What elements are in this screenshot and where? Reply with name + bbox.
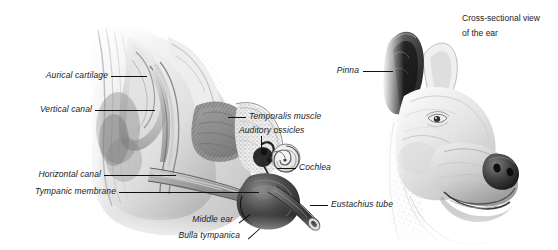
leader-pinna bbox=[363, 71, 393, 72]
label-pinna: Pinna bbox=[296, 65, 359, 75]
label-auditory-ossicles: Auditory ossicles bbox=[239, 125, 304, 135]
leader-tympanic-membrane bbox=[119, 192, 259, 193]
leader-cochlea bbox=[277, 168, 296, 169]
figure-caption-line2: of the ear bbox=[462, 26, 498, 41]
eustachius-tube-region bbox=[268, 186, 322, 233]
label-temporalis-muscle: Temporalis muscle bbox=[249, 111, 321, 121]
label-vertical-canal: Vertical canal bbox=[0, 104, 92, 114]
label-horizontal-canal: Horizontal canal bbox=[0, 169, 101, 179]
ear-anatomy-figure: Aurical cartilage Vertical canal Horizon… bbox=[0, 0, 558, 250]
leader-auditory-ossicles bbox=[261, 136, 262, 152]
leader-eustachius-tube bbox=[310, 205, 328, 206]
auditory-ossicles-region bbox=[253, 142, 274, 174]
leader-bulla-tympanica bbox=[248, 228, 261, 239]
tympanic-membrane-region bbox=[253, 191, 273, 216]
figure-caption-line1: Cross-sectional view bbox=[462, 11, 540, 26]
horizontal-ear-canal bbox=[148, 168, 259, 207]
leader-horizontal-canal bbox=[104, 175, 176, 176]
label-bulla-tympanica: Bulla tympanica bbox=[150, 230, 240, 240]
leader-vertical-canal bbox=[95, 110, 155, 111]
label-tympanic-membrane: Tympanic membrane bbox=[0, 186, 116, 196]
dog-eye bbox=[426, 112, 449, 127]
label-eustachius-tube: Eustachius tube bbox=[331, 199, 393, 209]
label-cochlea: Cochlea bbox=[299, 162, 331, 172]
leader-aurical-cartilage bbox=[111, 76, 147, 77]
leader-temporalis-muscle bbox=[228, 117, 246, 118]
dog-head-group bbox=[383, 32, 519, 246]
bulla-tympanica-region bbox=[237, 173, 300, 229]
label-aurical-cartilage: Aurical cartilage bbox=[0, 70, 108, 80]
label-middle-ear: Middle ear bbox=[150, 214, 233, 224]
dog-nose bbox=[482, 154, 519, 190]
leader-middle-ear bbox=[239, 214, 251, 223]
